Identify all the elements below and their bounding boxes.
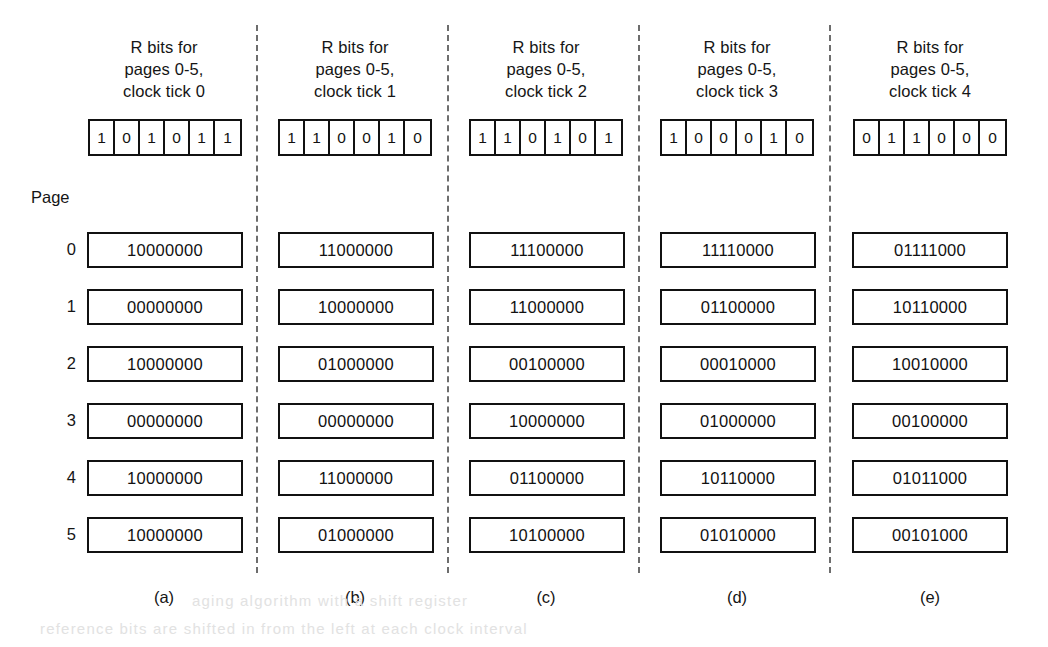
r-bit-cell: 1 <box>215 121 240 154</box>
r-bit-cell: 0 <box>355 121 380 154</box>
column-header-line3-d: clock tick 3 <box>639 80 835 102</box>
counter-box: 10000000 <box>87 346 243 382</box>
r-bit-cell: 0 <box>737 121 762 154</box>
r-bits-strip-e: 0 1 1 0 0 0 <box>853 119 1007 156</box>
counter-box: 10000000 <box>87 232 243 268</box>
column-footer-a: (a) <box>66 588 262 607</box>
r-bit-cell: 1 <box>762 121 787 154</box>
counter-box: 00100000 <box>469 346 625 382</box>
row-index-4: 4 <box>52 468 76 487</box>
column-header-line1-e: R bits for <box>832 36 1028 58</box>
r-bit-cell: 0 <box>930 121 955 154</box>
counter-box: 00000000 <box>87 289 243 325</box>
r-bit-cell: 1 <box>496 121 521 154</box>
column-separator-1 <box>256 25 258 573</box>
counter-box: 01010000 <box>660 517 816 553</box>
r-bit-cell: 0 <box>955 121 980 154</box>
counter-box: 01011000 <box>852 460 1008 496</box>
column-header-c: R bits for pages 0-5, clock tick 2 <box>448 36 644 102</box>
r-bit-cell: 0 <box>521 121 546 154</box>
counter-box: 01100000 <box>469 460 625 496</box>
r-bit-cell: 0 <box>687 121 712 154</box>
r-bits-strip-c: 1 1 0 1 0 1 <box>469 119 623 156</box>
column-header-line3-a: clock tick 0 <box>66 80 262 102</box>
counter-box: 11000000 <box>278 232 434 268</box>
r-bit-cell: 0 <box>980 121 1005 154</box>
row-index-3: 3 <box>52 411 76 430</box>
r-bit-cell: 1 <box>190 121 215 154</box>
counter-box: 10110000 <box>852 289 1008 325</box>
r-bit-cell: 0 <box>855 121 880 154</box>
counter-box: 10000000 <box>87 517 243 553</box>
r-bit-cell: 0 <box>165 121 190 154</box>
column-header-line2-b: pages 0-5, <box>257 58 453 80</box>
column-header-line3-e: clock tick 4 <box>832 80 1028 102</box>
row-index-2: 2 <box>52 354 76 373</box>
column-header-line2-e: pages 0-5, <box>832 58 1028 80</box>
counter-box: 10100000 <box>469 517 625 553</box>
column-footer-c: (c) <box>448 588 644 607</box>
column-header-d: R bits for pages 0-5, clock tick 3 <box>639 36 835 102</box>
r-bit-cell: 1 <box>880 121 905 154</box>
counter-box: 11110000 <box>660 232 816 268</box>
counter-box: 01000000 <box>278 517 434 553</box>
counter-box: 10000000 <box>87 460 243 496</box>
scan-bleed-through: reference bits are shifted in from the l… <box>40 620 528 637</box>
counter-box: 11000000 <box>469 289 625 325</box>
counter-box: 00101000 <box>852 517 1008 553</box>
counter-box: 00100000 <box>852 403 1008 439</box>
page-axis-label: Page <box>31 188 70 207</box>
r-bits-strip-a: 1 0 1 0 1 1 <box>88 119 242 156</box>
column-header-line1-b: R bits for <box>257 36 453 58</box>
r-bit-cell: 1 <box>905 121 930 154</box>
r-bit-cell: 1 <box>471 121 496 154</box>
column-footer-d: (d) <box>639 588 835 607</box>
figure-aging-algorithm: R bits for pages 0-5, clock tick 0 1 0 1… <box>0 0 1048 647</box>
counter-box: 10110000 <box>660 460 816 496</box>
r-bits-strip-d: 1 0 0 0 1 0 <box>660 119 814 156</box>
column-header-a: R bits for pages 0-5, clock tick 0 <box>66 36 262 102</box>
r-bit-cell: 1 <box>140 121 165 154</box>
r-bit-cell: 1 <box>305 121 330 154</box>
column-header-line2-d: pages 0-5, <box>639 58 835 80</box>
counter-box: 10000000 <box>469 403 625 439</box>
column-separator-3 <box>638 25 640 573</box>
row-index-5: 5 <box>52 525 76 544</box>
counter-box: 11100000 <box>469 232 625 268</box>
r-bit-cell: 0 <box>330 121 355 154</box>
counter-box: 10010000 <box>852 346 1008 382</box>
column-header-line2-c: pages 0-5, <box>448 58 644 80</box>
r-bit-cell: 0 <box>712 121 737 154</box>
counter-box: 00000000 <box>278 403 434 439</box>
r-bit-cell: 1 <box>380 121 405 154</box>
column-header-line1-d: R bits for <box>639 36 835 58</box>
counter-box: 01111000 <box>852 232 1008 268</box>
column-header-line3-b: clock tick 1 <box>257 80 453 102</box>
column-separator-2 <box>447 25 449 573</box>
column-header-e: R bits for pages 0-5, clock tick 4 <box>832 36 1028 102</box>
counter-box: 01000000 <box>278 346 434 382</box>
counter-box: 10000000 <box>278 289 434 325</box>
r-bit-cell: 0 <box>115 121 140 154</box>
r-bit-cell: 1 <box>546 121 571 154</box>
column-header-line1-a: R bits for <box>66 36 262 58</box>
row-index-0: 0 <box>52 240 76 259</box>
counter-box: 00010000 <box>660 346 816 382</box>
r-bit-cell: 1 <box>90 121 115 154</box>
row-index-1: 1 <box>52 297 76 316</box>
column-separator-4 <box>829 25 831 573</box>
r-bits-strip-b: 1 1 0 0 1 0 <box>278 119 432 156</box>
column-header-line1-c: R bits for <box>448 36 644 58</box>
column-header-line2-a: pages 0-5, <box>66 58 262 80</box>
r-bit-cell: 0 <box>405 121 430 154</box>
r-bit-cell: 1 <box>662 121 687 154</box>
counter-box: 11000000 <box>278 460 434 496</box>
column-footer-b: (b) <box>257 588 453 607</box>
r-bit-cell: 1 <box>280 121 305 154</box>
counter-box: 01100000 <box>660 289 816 325</box>
column-header-b: R bits for pages 0-5, clock tick 1 <box>257 36 453 102</box>
r-bit-cell: 1 <box>596 121 621 154</box>
column-header-line3-c: clock tick 2 <box>448 80 644 102</box>
r-bit-cell: 0 <box>787 121 812 154</box>
r-bit-cell: 0 <box>571 121 596 154</box>
